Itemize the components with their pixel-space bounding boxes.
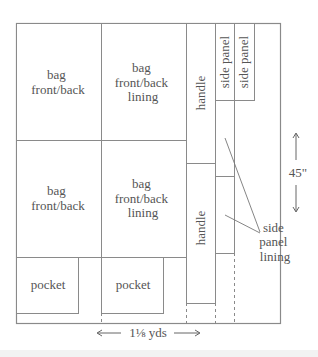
width-dimension: 1⅛ yds: [97, 325, 200, 340]
height-label: 45": [289, 165, 307, 180]
label-pocket-2: pocket: [116, 277, 151, 292]
label-handle-2: handle: [193, 210, 208, 245]
label-side-panel-lining: side panel lining: [259, 220, 290, 264]
width-label: 1⅛ yds: [129, 325, 167, 340]
label-pocket-1: pocket: [31, 277, 66, 292]
footer-bar: [0, 350, 318, 357]
label-side-panel-2: side panel: [236, 35, 251, 88]
label-side-panel-1: side panel: [217, 35, 232, 88]
label-handle-1: handle: [193, 75, 208, 110]
cutting-layout-diagram: bag front/back bag front/back lining bag…: [0, 0, 318, 357]
height-dimension: 45": [289, 133, 307, 212]
